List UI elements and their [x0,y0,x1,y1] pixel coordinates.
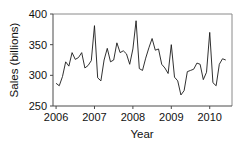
x-tick-label: 2007 [82,111,106,123]
plot-frame [53,14,232,106]
x-tick-label: 2009 [159,111,183,123]
sales-series-line [56,21,226,95]
sales-line-chart: 250300350400 20062007200820092010 Sales … [0,0,246,144]
x-tick-label: 2010 [197,111,221,123]
y-tick-label: 300 [29,69,47,81]
x-axis-title: Year [130,128,153,140]
y-axis-title: Sales (billions) [8,22,20,97]
x-tick-label: 2006 [44,111,68,123]
y-tick-label: 400 [29,8,47,20]
y-tick-label: 350 [29,39,47,51]
x-tick-label: 2008 [121,111,145,123]
chart-canvas: 250300350400 20062007200820092010 Sales … [0,0,246,144]
y-axis-tick-labels: 250300350400 [29,8,47,112]
x-axis-tick-labels: 20062007200820092010 [44,111,222,123]
